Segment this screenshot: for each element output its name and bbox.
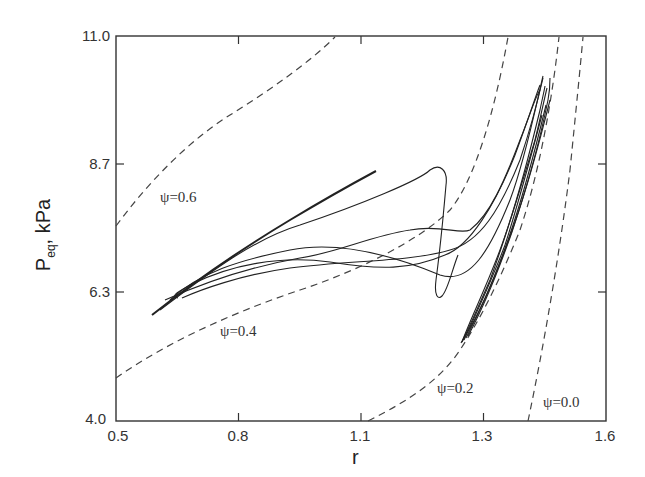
x-tick-label: 0.8 [218, 427, 258, 444]
y-ticks [116, 164, 606, 292]
annotation-psi-0.6: ψ=0.6 [160, 189, 197, 206]
x-tick-label: 1.3 [462, 427, 502, 444]
y-tick-label: 11.0 [60, 27, 110, 44]
plot-frame [116, 36, 606, 421]
y-tick-label: 4.0 [56, 410, 106, 427]
x-tick-label: 1.6 [585, 427, 625, 444]
annotation-psi-0.4: ψ=0.4 [220, 323, 257, 340]
x-tick-label: 0.5 [98, 427, 138, 444]
x-tick-label: 1.1 [340, 427, 380, 444]
curve-psi-0.2 [368, 37, 559, 421]
trajectory-curves [152, 76, 550, 343]
y-tick-label: 6.3 [60, 283, 110, 300]
x-axis-title: r [352, 446, 359, 469]
annotation-psi-0.0: ψ=0.0 [543, 394, 580, 411]
y-axis-title-main: P [32, 258, 54, 271]
y-axis-title: Peq, kPa [32, 180, 58, 290]
curve-psi-0.6 [116, 37, 335, 226]
annotation-psi-0.2: ψ=0.2 [437, 380, 474, 397]
y-tick-label: 8.7 [60, 155, 110, 172]
y-axis-title-sub: eq [44, 244, 58, 257]
y-axis-title-rest: , kPa [32, 199, 54, 245]
